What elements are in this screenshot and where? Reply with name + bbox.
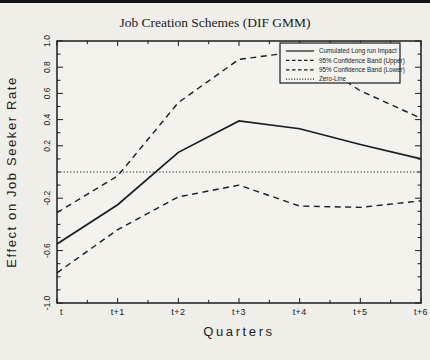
legend-label: Zero-Line [319, 75, 346, 82]
y-tick-label: -0.2 [42, 191, 52, 206]
plot-area: -1.0-0.6-0.20.20.40.60.81.0tt+1t+2t+3t+4… [42, 35, 428, 317]
top-border-bar [0, 0, 430, 3]
y-axis-label: Effect on Job Seeker Rate [4, 76, 19, 268]
y-tick-label: 0.6 [42, 87, 52, 99]
x-tick-label: t+2 [171, 307, 185, 317]
x-tick-label: t+1 [111, 307, 125, 317]
x-tick-label: t+3 [232, 307, 246, 317]
x-tick-label: t+6 [414, 307, 428, 317]
y-tick-label: 0.8 [42, 61, 52, 73]
legend-label: Cumulated Long run Impact [319, 47, 397, 55]
x-tick-label: t+4 [293, 307, 307, 317]
legend-label: 95% Confidence Band (Upper) [319, 57, 405, 65]
y-tick-label: 1.0 [42, 35, 52, 47]
legend: Cumulated Long run Impact95% Confidence … [280, 43, 405, 83]
x-tick-label: t [60, 307, 63, 317]
legend-label: 95% Confidence Band (Lower) [319, 66, 405, 74]
x-tick-label: t+5 [353, 307, 367, 317]
y-tick-label: 0.4 [42, 113, 52, 125]
y-tick-label: -0.6 [42, 243, 52, 258]
chart-title: Job Creation Schemes (DIF GMM) [119, 15, 310, 30]
y-tick-label: 0.2 [42, 140, 52, 152]
y-tick-label: -1.0 [42, 295, 52, 310]
chart: Job Creation Schemes (DIF GMM) -1.0-0.6-… [0, 0, 430, 360]
x-axis-label: Quarters [203, 324, 274, 339]
